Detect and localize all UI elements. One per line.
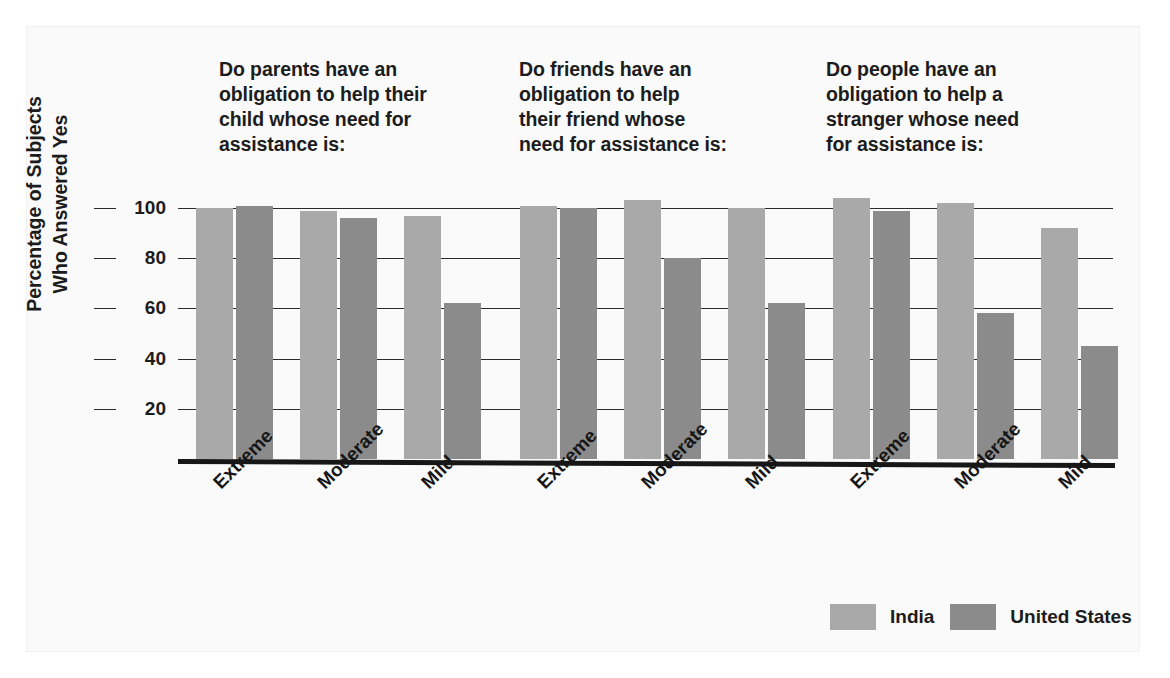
- y-axis-tick-label: 100: [120, 197, 166, 219]
- bar-india-mild: [1041, 228, 1078, 459]
- bar-india-moderate: [300, 211, 337, 459]
- bar-united-states-extreme: [236, 206, 273, 460]
- chart-legend: IndiaUnited States: [830, 604, 1132, 630]
- bar-india-mild: [404, 216, 441, 459]
- y-axis-tick-label: 80: [120, 247, 166, 269]
- y-axis-title-line: Who Answered Yes: [47, 39, 73, 369]
- heading-line: child whose need for: [219, 107, 509, 132]
- legend-swatch: [830, 604, 876, 630]
- bar-united-states-mild: [444, 303, 481, 459]
- bar-india-extreme: [196, 208, 233, 459]
- y-axis-title: Percentage of SubjectsWho Answered Yes: [21, 39, 73, 369]
- heading-line: need for assistance is:: [519, 132, 804, 157]
- panel-heading-friends: Do friends have anobligation to helpthei…: [519, 57, 804, 157]
- y-axis-ticks: 10080604020: [120, 207, 166, 462]
- heading-line: obligation to help their: [219, 82, 509, 107]
- legend-item-united-states: United States: [950, 604, 1131, 630]
- y-axis-title-line: Percentage of Subjects: [21, 39, 47, 369]
- panel-heading-strangers: Do people have anobligation to help astr…: [826, 57, 1116, 157]
- chart-figure: Do parents have anobligation to help the…: [0, 0, 1170, 678]
- bar-united-states-extreme: [873, 211, 910, 459]
- heading-line: their friend whose: [519, 107, 804, 132]
- bar-united-states-extreme: [560, 208, 597, 459]
- legend-label: India: [890, 606, 934, 628]
- legend-swatch: [950, 604, 996, 630]
- y-axis-tick-mark: [94, 359, 116, 360]
- heading-line: Do parents have an: [219, 57, 509, 82]
- bar-india-mild: [728, 208, 765, 459]
- bar-india-moderate: [937, 203, 974, 459]
- bar-united-states-mild: [1081, 346, 1118, 459]
- y-axis-tick-mark: [94, 409, 116, 410]
- y-axis-tick-mark: [94, 258, 116, 259]
- heading-line: for assistance is:: [826, 132, 1116, 157]
- plot-area: [178, 207, 1113, 462]
- heading-line: Do friends have an: [519, 57, 804, 82]
- heading-line: stranger whose need: [826, 107, 1116, 132]
- y-axis-tick-label: 60: [120, 297, 166, 319]
- y-axis-tick-label: 40: [120, 348, 166, 370]
- legend-label: United States: [1010, 606, 1131, 628]
- heading-line: assistance is:: [219, 132, 509, 157]
- y-axis-tick-label: 20: [120, 398, 166, 420]
- y-axis-tick-mark: [94, 208, 116, 209]
- panel-heading-parents: Do parents have anobligation to help the…: [219, 57, 509, 157]
- heading-line: obligation to help a: [826, 82, 1116, 107]
- legend-item-india: India: [830, 604, 934, 630]
- bar-india-extreme: [520, 206, 557, 460]
- bar-india-extreme: [833, 198, 870, 459]
- bar-india-moderate: [624, 200, 661, 459]
- heading-line: Do people have an: [826, 57, 1116, 82]
- y-axis-tick-mark: [94, 308, 116, 309]
- heading-line: obligation to help: [519, 82, 804, 107]
- bar-united-states-mild: [768, 303, 805, 459]
